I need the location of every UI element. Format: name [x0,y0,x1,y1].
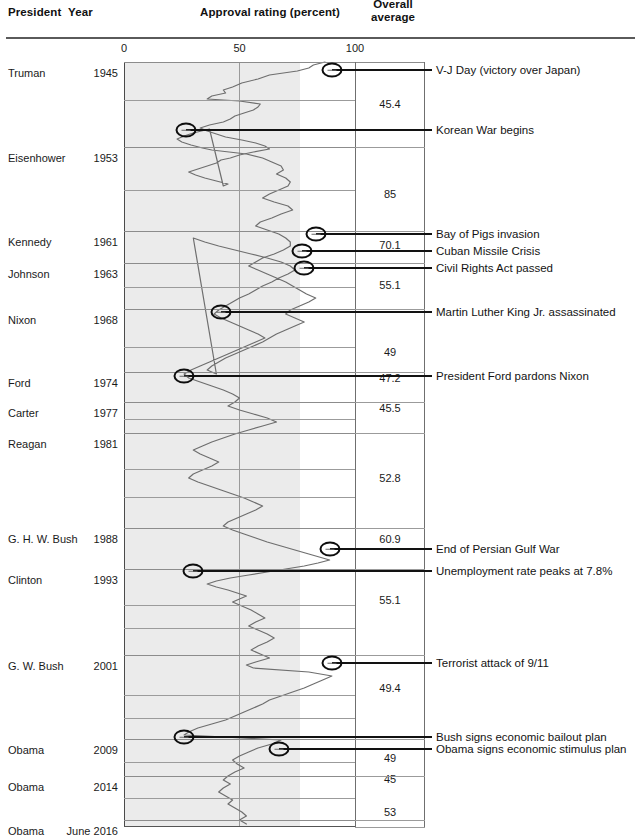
overall-average-value: 53 [360,806,420,818]
row-separator [124,628,355,629]
event-leader-line [304,267,432,269]
row-label-year: 2014 [10,781,118,793]
overall-average-separator [355,372,425,373]
overall-average-value: 55.1 [360,279,420,291]
row-label-year: 1963 [10,268,118,280]
event-marker-circle[interactable] [321,656,342,671]
event-leader-line [330,548,432,550]
event-label: V-J Day (victory over Japan) [436,64,580,76]
overall-average-value: 45.4 [360,98,420,110]
overall-average-separator [355,655,425,656]
event-label: Bush signs economic bailout plan [436,731,607,743]
overall-average-separator [355,528,425,529]
x-axis-tick-50: 50 [233,42,245,54]
overall-average-value: 45 [360,773,420,785]
row-label-year: 1974 [10,377,118,389]
event-leader-line [316,233,432,235]
row-separator [124,287,355,288]
row-label-year: 1961 [10,236,118,248]
row-separator [124,718,355,719]
overall-average-value: 52.8 [360,472,420,484]
overall-average-value: 49 [360,752,420,764]
overall-average-separator [355,820,425,821]
column-header-overall-average: Overall average [360,0,426,24]
event-marker-circle[interactable] [291,244,312,259]
event-marker-circle[interactable] [183,564,204,579]
overall-average-value: 85 [360,188,420,200]
event-label: Martin Luther King Jr. assassinated [436,306,616,318]
event-label: Obama signs economic stimulus plan [436,743,626,755]
row-separator [124,347,355,348]
event-leader-line [332,662,432,664]
event-leader-line [279,748,432,750]
row-separator [124,605,355,606]
row-label-year: 1981 [10,438,118,450]
overall-average-line2: average [360,11,426,24]
row-label-year: 1968 [10,314,118,326]
overall-average-column-right-border [424,62,425,827]
overall-average-separator [355,231,425,232]
overall-average-value: 55.1 [360,594,420,606]
event-leader-line [186,129,432,131]
row-separator [124,798,355,799]
approval-plot-area [124,62,355,827]
event-leader-line [302,250,432,252]
row-separator [124,695,355,696]
row-separator [124,469,355,470]
overall-average-separator [355,776,425,777]
header-divider-rule [6,37,635,39]
row-separator [124,62,425,63]
overall-average-separator [355,827,425,828]
column-header-year: Year [68,6,93,18]
event-label: Bay of Pigs invasion [436,228,540,240]
event-marker-circle[interactable] [174,730,195,745]
event-label: Terrorist attack of 9/11 [436,657,549,669]
event-label: End of Persian Gulf War [436,543,560,555]
overall-average-separator [355,309,425,310]
event-marker-circle[interactable] [294,261,315,276]
event-marker-circle[interactable] [211,305,232,320]
column-header-president: President [8,6,61,18]
event-leader-line [184,375,432,377]
row-separator [124,190,355,191]
row-label-year: June 2016 [10,825,118,836]
approval-rating-sparkline [124,62,355,827]
event-marker-circle[interactable] [305,227,326,242]
row-label-year: 1977 [10,407,118,419]
overall-average-value: 47.2 [360,372,420,384]
overall-average-value: 60.9 [360,533,420,545]
event-label: Civil Rights Act passed [436,262,553,274]
overall-average-column-left-border [355,62,356,827]
overall-average-separator [355,402,425,403]
row-label-year: 2001 [10,660,118,672]
column-header-approval-rating: Approval rating (percent) [160,6,380,18]
row-separator [124,100,355,101]
event-marker-circle[interactable] [176,123,197,138]
event-marker-circle[interactable] [174,369,195,384]
row-label-year: 1953 [10,152,118,164]
row-separator [124,419,355,420]
event-leader-line [184,736,432,738]
row-label-year: 2009 [10,744,118,756]
x-axis-tick-0: 0 [121,42,127,54]
event-label: Cuban Missile Crisis [436,245,540,257]
row-label-year: 1988 [10,533,118,545]
event-label: Korean War begins [436,124,534,136]
row-label-year: 1945 [10,67,118,79]
event-leader-line [332,69,432,71]
overall-average-separator [355,147,425,148]
overall-average-separator [355,433,425,434]
overall-average-separator [355,739,425,740]
row-separator [124,497,355,498]
overall-average-value: 49 [360,346,420,358]
x-axis-tick-100: 100 [346,42,364,54]
event-marker-circle[interactable] [268,742,289,757]
event-leader-line [193,570,432,572]
overall-average-separator [355,263,425,264]
chart-root: President Year Approval rating (percent)… [0,0,641,836]
event-marker-circle[interactable] [321,63,342,78]
row-label-year: 1993 [10,574,118,586]
event-leader-line [221,311,432,313]
event-marker-circle[interactable] [319,542,340,557]
row-separator [124,762,355,763]
